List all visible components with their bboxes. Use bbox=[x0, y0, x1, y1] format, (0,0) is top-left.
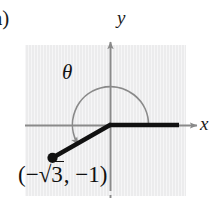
figure-container: a) y x θ (−√3, −1) bbox=[0, 0, 217, 210]
point-label-tail: , −1) bbox=[64, 162, 108, 187]
point-label-open: (− bbox=[18, 162, 39, 187]
point-coordinates-label: (−√3, −1) bbox=[18, 163, 107, 186]
terminal-side-ray bbox=[53, 125, 110, 158]
theta-angle-label: θ bbox=[62, 62, 72, 83]
radicand: 3 bbox=[50, 161, 64, 187]
x-axis-label: x bbox=[200, 114, 208, 133]
y-axis-label: y bbox=[117, 8, 125, 27]
square-root-group: √3 bbox=[39, 163, 64, 186]
